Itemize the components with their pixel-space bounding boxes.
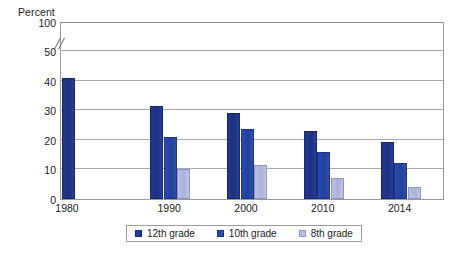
bar-chart: Percent 01020304050100 19801990200020102… bbox=[0, 0, 462, 255]
bar bbox=[164, 137, 177, 199]
x-axis-tick-labels: 19801990200020102014 bbox=[60, 202, 444, 218]
y-axis-tick-label: 50 bbox=[16, 46, 56, 58]
y-axis-tick-label: 30 bbox=[16, 105, 56, 117]
bar bbox=[254, 165, 267, 199]
bar bbox=[177, 169, 190, 199]
bar bbox=[150, 106, 163, 199]
x-axis-tick-label: 2000 bbox=[234, 202, 257, 214]
y-axis-tick-labels: 01020304050100 bbox=[12, 22, 56, 200]
x-axis-tick-label: 2014 bbox=[388, 202, 411, 214]
y-axis-tick-label: 0 bbox=[16, 194, 56, 206]
y-axis-tick-label: 40 bbox=[16, 76, 56, 88]
legend-label: 10th grade bbox=[229, 228, 277, 239]
bar bbox=[381, 142, 394, 199]
bar bbox=[408, 187, 421, 199]
y-axis-tick-label: 100 bbox=[16, 17, 56, 29]
legend-swatch-icon bbox=[217, 230, 224, 237]
legend-swatch-icon bbox=[135, 230, 142, 237]
legend-item: 10th grade bbox=[217, 228, 277, 239]
bar bbox=[304, 131, 317, 199]
y-axis-tick-label: 10 bbox=[16, 164, 56, 176]
legend-label: 12th grade bbox=[147, 228, 195, 239]
bar bbox=[241, 129, 254, 199]
bar bbox=[394, 163, 407, 199]
plot-area bbox=[60, 22, 444, 200]
x-axis-tick-label: 1980 bbox=[55, 202, 78, 214]
legend-item: 8th grade bbox=[299, 228, 353, 239]
gridline bbox=[61, 109, 443, 110]
bar bbox=[62, 78, 75, 199]
chart-legend: 12th grade10th grade8th grade bbox=[126, 225, 362, 242]
bar bbox=[317, 152, 330, 199]
gridline bbox=[61, 50, 443, 51]
gridline bbox=[61, 80, 443, 81]
bar bbox=[331, 178, 344, 199]
y-axis-tick-label: 20 bbox=[16, 135, 56, 147]
legend-swatch-icon bbox=[299, 230, 306, 237]
bar bbox=[227, 113, 240, 199]
x-axis-tick-label: 1990 bbox=[158, 202, 181, 214]
x-axis-tick-label: 2010 bbox=[311, 202, 334, 214]
legend-label: 8th grade bbox=[311, 228, 353, 239]
legend-item: 12th grade bbox=[135, 228, 195, 239]
y-axis-break-icon bbox=[55, 37, 66, 51]
